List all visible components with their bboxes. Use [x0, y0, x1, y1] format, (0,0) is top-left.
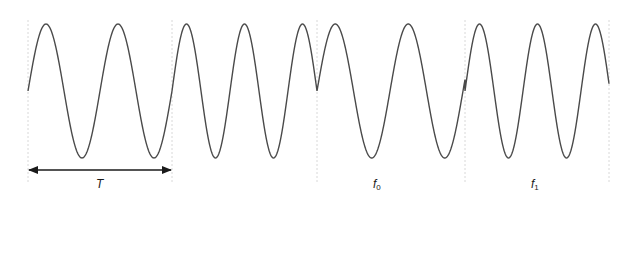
f1-subscript: 1: [534, 183, 538, 192]
frequency-f1-label: f1: [531, 178, 539, 192]
frequency-f0-label: f0: [373, 178, 381, 192]
sine-waveform: [28, 24, 609, 158]
f0-subscript: 0: [376, 183, 380, 192]
period-label-text: T: [96, 177, 103, 191]
fsk-waveform-diagram: [0, 0, 643, 262]
period-label: T: [96, 178, 103, 190]
